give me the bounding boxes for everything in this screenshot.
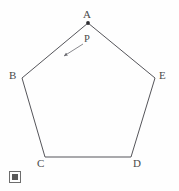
vertex-label-e: E — [159, 70, 166, 81]
pentagon-figure: A B C D E P — [0, 0, 179, 191]
vertex-label-b: B — [9, 70, 17, 81]
missing-glyph-icon — [9, 171, 21, 183]
missing-glyph-inner — [12, 174, 18, 180]
pentagon-diagram-canvas — [0, 0, 179, 191]
vertex-label-c: C — [37, 158, 45, 169]
p-annotation-arrow — [64, 44, 83, 56]
vertex-label-d: D — [133, 158, 141, 169]
interior-point-label-p: P — [84, 33, 90, 44]
vertex-label-a: A — [83, 9, 91, 20]
vertex-a-marker-dot — [86, 21, 90, 25]
